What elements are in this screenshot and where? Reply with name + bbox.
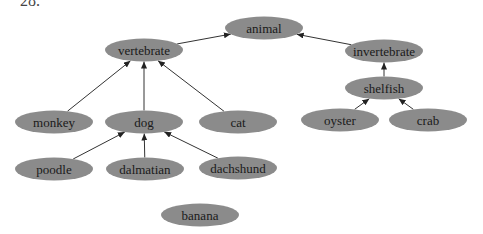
- edge-dachshund-to-dog: [164, 132, 218, 158]
- hierarchy-diagram: animalvertebrateinvertebrateshelfishmonk…: [0, 0, 483, 234]
- edge-oyster-to-shelfish: [355, 99, 370, 110]
- edge-vertebrate-to-animal: [177, 34, 231, 44]
- node-label: shelfish: [364, 81, 405, 96]
- node-label: monkey: [33, 115, 75, 130]
- node-cat: cat: [199, 111, 277, 134]
- edge-crab-to-shelfish: [399, 99, 414, 110]
- arrow-icon: [67, 61, 130, 111]
- node-label: invertebrate: [353, 44, 415, 59]
- node-monkey: monkey: [15, 111, 93, 134]
- node-shelfish: shelfish: [345, 77, 423, 100]
- node-oyster: oyster: [301, 109, 379, 132]
- node-dalmatian: dalmatian: [106, 158, 184, 181]
- node-crab: crab: [389, 109, 467, 132]
- edge-cat-to-vertebrate: [158, 61, 224, 112]
- arrow-icon: [144, 133, 145, 157]
- arrow-icon: [158, 61, 224, 112]
- edge-monkey-to-vertebrate: [67, 61, 130, 111]
- node-poodle: poodle: [15, 158, 93, 181]
- edge-dalmatian-to-dog: [144, 133, 145, 157]
- node-label: banana: [182, 208, 219, 223]
- node-label: dachshund: [210, 161, 266, 176]
- node-label: poodle: [36, 162, 72, 177]
- node-label: cat: [230, 115, 246, 130]
- node-animal: animal: [225, 17, 303, 40]
- edge-poodle-to-dog: [73, 132, 125, 159]
- node-banana: banana: [161, 204, 239, 227]
- node-label: dalmatian: [119, 162, 171, 177]
- node-invertebrate: invertebrate: [345, 40, 423, 63]
- node-label: dog: [134, 115, 154, 130]
- arrow-icon: [177, 34, 231, 44]
- node-label: animal: [246, 21, 282, 36]
- arrow-icon: [399, 99, 414, 110]
- arrow-icon: [164, 132, 218, 158]
- node-label: crab: [417, 113, 439, 128]
- arrow-icon: [73, 132, 125, 159]
- edge-invertebrate-to-animal: [297, 34, 352, 44]
- node-label: oyster: [324, 113, 356, 128]
- arrow-icon: [355, 99, 370, 110]
- nodes-layer: animalvertebrateinvertebrateshelfishmonk…: [15, 17, 467, 227]
- node-dachshund: dachshund: [199, 157, 277, 180]
- node-vertebrate: vertebrate: [105, 39, 183, 62]
- arrow-icon: [297, 34, 352, 44]
- node-label: vertebrate: [118, 43, 170, 58]
- node-dog: dog: [105, 111, 183, 134]
